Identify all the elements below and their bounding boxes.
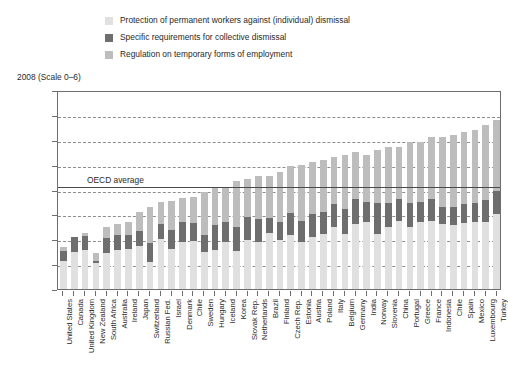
bar-group[interactable]	[190, 197, 197, 289]
bar-group[interactable]	[233, 181, 240, 289]
bar-segment-permanent	[255, 242, 262, 289]
x-tick-label: Ireland	[130, 299, 139, 322]
x-tick-label: New Zealand	[98, 299, 107, 344]
bar-group[interactable]	[298, 165, 305, 289]
x-tick-mark	[149, 291, 150, 296]
bar-group[interactable]	[396, 147, 403, 289]
bar-group[interactable]	[407, 142, 414, 289]
bar-segment-collective	[374, 203, 381, 234]
bar-group[interactable]	[439, 137, 446, 289]
bar-segment-temporary	[158, 202, 165, 224]
x-tick-label: Greece	[423, 299, 432, 324]
bar-group[interactable]	[428, 137, 435, 289]
bar-segment-temporary	[277, 172, 284, 222]
bar-segment-permanent	[450, 225, 457, 289]
x-tick-mark	[192, 291, 193, 296]
bar-segment-temporary	[125, 222, 132, 234]
bar-group[interactable]	[60, 247, 67, 289]
bar-segment-permanent	[60, 261, 67, 289]
bar-group[interactable]	[493, 120, 500, 289]
x-tick-mark	[474, 291, 475, 296]
legend-swatch-permanent	[105, 17, 113, 25]
y-axis-title: 2008 (Scale 0–6)	[17, 72, 81, 82]
x-tick-mark	[441, 291, 442, 296]
bar-segment-temporary	[255, 176, 262, 220]
x-tick-mark	[301, 291, 302, 296]
bar-segment-collective	[190, 223, 197, 240]
x-tick-label: Sweden	[206, 299, 215, 326]
x-tick-label: India	[369, 299, 378, 315]
bar-group[interactable]	[93, 253, 100, 289]
bar-group[interactable]	[450, 135, 457, 289]
bar-segment-temporary	[287, 166, 294, 213]
bar-segment-permanent	[201, 252, 208, 289]
bar-group[interactable]	[482, 125, 489, 289]
x-tick-label: Estonia	[304, 299, 313, 324]
bar-group[interactable]	[461, 132, 468, 289]
x-tick-label: Denmark	[185, 299, 194, 330]
bar-segment-permanent	[277, 240, 284, 289]
bar-segment-permanent	[71, 252, 78, 289]
bar-segment-collective	[82, 236, 89, 250]
x-tick-mark	[279, 291, 280, 296]
bar-group[interactable]	[363, 155, 370, 289]
x-tick-label: Netherlands	[260, 299, 269, 340]
bar-group[interactable]	[222, 187, 229, 289]
bar-group[interactable]	[277, 172, 284, 289]
bar-segment-collective	[385, 203, 392, 227]
bar-segment-collective	[266, 218, 273, 233]
bar-group[interactable]	[472, 130, 479, 289]
x-tick-mark	[452, 291, 453, 296]
bar-group[interactable]	[71, 237, 78, 289]
bar-group[interactable]	[320, 160, 327, 289]
x-tick-label: Chile	[455, 299, 464, 316]
bar-group[interactable]	[125, 222, 132, 289]
bar-group[interactable]	[287, 166, 294, 289]
bar-group[interactable]	[244, 179, 251, 289]
bar-group[interactable]	[266, 176, 273, 289]
bar-group[interactable]	[82, 233, 89, 289]
bar-segment-permanent	[428, 221, 435, 289]
bar-segment-permanent	[125, 249, 132, 289]
bar-segment-collective	[125, 235, 132, 249]
bar-segment-collective	[277, 222, 284, 240]
x-tick-mark	[106, 291, 107, 296]
bar-group[interactable]	[385, 147, 392, 289]
x-tick-label: Finland	[282, 299, 291, 324]
bar-segment-collective	[93, 261, 100, 263]
bar-group[interactable]	[201, 192, 208, 289]
bar-group[interactable]	[255, 176, 262, 289]
bar-group[interactable]	[158, 202, 165, 289]
bar-group[interactable]	[114, 224, 121, 289]
bar-group[interactable]	[352, 152, 359, 289]
bar-segment-collective	[428, 199, 435, 221]
bar-group[interactable]	[309, 162, 316, 289]
bar-group[interactable]	[179, 198, 186, 289]
bar-segment-collective	[417, 202, 424, 222]
bar-group[interactable]	[136, 212, 143, 289]
x-tick-mark	[214, 291, 215, 296]
bar-segment-collective	[212, 225, 219, 250]
bar-group[interactable]	[168, 201, 175, 289]
bar-segment-permanent	[212, 250, 219, 289]
bar-group[interactable]	[147, 207, 154, 289]
bar-segment-temporary	[201, 192, 208, 235]
bar-segment-temporary	[352, 152, 359, 199]
bar-group[interactable]	[417, 142, 424, 289]
bar-group[interactable]	[212, 187, 219, 289]
bar-segment-permanent	[439, 224, 446, 289]
bar-segment-collective	[320, 212, 327, 234]
bar-segment-temporary	[385, 147, 392, 203]
bar-segment-collective	[331, 204, 338, 226]
bar-segment-collective	[309, 214, 316, 236]
bar-segment-collective	[114, 235, 121, 250]
bar-group[interactable]	[374, 150, 381, 289]
bar-group[interactable]	[103, 227, 110, 289]
bar-segment-collective	[461, 204, 468, 223]
legend-item-collective: Specific requirements for collective dis…	[105, 29, 350, 46]
bar-segment-collective	[363, 202, 370, 222]
bar-segment-temporary	[179, 198, 186, 222]
bar-group[interactable]	[342, 155, 349, 289]
bar-segment-collective	[103, 238, 110, 253]
bar-group[interactable]	[331, 157, 338, 289]
